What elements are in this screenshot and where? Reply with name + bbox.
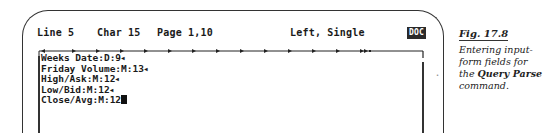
scroll-mark: •: [436, 72, 439, 78]
line-indicator: Line 5: [37, 27, 74, 38]
form-field-line[interactable]: Close/Avg:M:12: [41, 95, 148, 106]
field-end-marker-icon: ◀: [115, 75, 119, 82]
page-indicator: Page 1,10: [157, 27, 213, 38]
figure-description: Entering input-form fields for the Query…: [459, 44, 545, 92]
left-margin-bracket: [38, 56, 40, 133]
alignment-indicator: Left, Single: [290, 27, 365, 38]
right-margin-bracket: [422, 62, 424, 133]
text-cursor: [121, 95, 127, 104]
field-end-marker-icon: ◀: [121, 54, 125, 61]
command-name: Query Parse: [478, 68, 543, 79]
figure-number: Fig. 17.8: [459, 28, 508, 41]
figure-caption: Fig. 17.8 Entering input-form fields for…: [459, 22, 545, 92]
field-end-marker-icon: ◀: [110, 86, 114, 93]
doc-mode-badge: DOC: [407, 27, 426, 39]
field-end-marker-icon: ◀: [144, 65, 148, 72]
char-indicator: Char 15: [97, 27, 141, 38]
status-bar: Line 5 Char 15 Page 1,10 Left, Single DO…: [37, 27, 427, 41]
document-body[interactable]: Weeks Date:D:9◀ Friday Volume:M:13◀ High…: [41, 53, 148, 106]
